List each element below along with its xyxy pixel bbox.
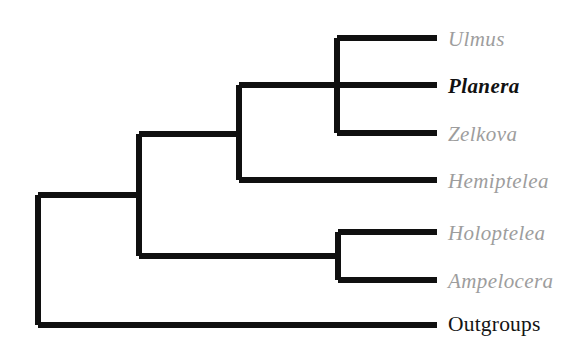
tip-label-ampelocera: Ampelocera: [448, 271, 553, 292]
tip-label-planera: Planera: [448, 76, 520, 97]
tip-label-zelkova: Zelkova: [448, 124, 517, 145]
phylogenetic-tree-figure: UlmusPlaneraZelkovaHemipteleaHolopteleaA…: [0, 0, 585, 354]
tip-label-outgroups: Outgroups: [448, 314, 541, 336]
tip-label-ulmus: Ulmus: [448, 29, 505, 50]
tip-label-hemiptelea: Hemiptelea: [448, 171, 549, 192]
tip-label-holoptelea: Holoptelea: [448, 223, 545, 244]
